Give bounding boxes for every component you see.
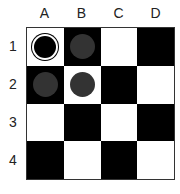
- cell-c1[interactable]: [101, 28, 138, 66]
- cell-b1[interactable]: [64, 28, 101, 66]
- cell-a1[interactable]: [27, 28, 64, 66]
- row-label-2: 2: [6, 76, 20, 92]
- cell-c3[interactable]: [101, 104, 138, 142]
- gray-piece-icon[interactable]: [33, 72, 58, 97]
- cell-a2[interactable]: [27, 66, 64, 104]
- cell-b4[interactable]: [64, 141, 101, 179]
- row-label-1: 1: [6, 38, 20, 54]
- row-label-4: 4: [6, 152, 20, 168]
- cell-c2[interactable]: [101, 66, 138, 104]
- black-piece-icon[interactable]: [34, 36, 56, 58]
- column-label-a: A: [26, 5, 63, 21]
- cell-c4[interactable]: [101, 141, 138, 179]
- cell-d3[interactable]: [137, 104, 174, 142]
- row-label-3: 3: [6, 114, 20, 130]
- cell-d1[interactable]: [137, 28, 174, 66]
- column-label-d: D: [137, 5, 174, 21]
- gray-piece-icon[interactable]: [70, 72, 95, 97]
- gray-piece-icon[interactable]: [70, 34, 95, 59]
- cell-a4[interactable]: [27, 141, 64, 179]
- board-grid: [26, 27, 175, 180]
- cell-a3[interactable]: [27, 104, 64, 142]
- cell-d4[interactable]: [137, 141, 174, 179]
- column-label-c: C: [100, 5, 137, 21]
- column-label-b: B: [63, 5, 100, 21]
- cell-b2[interactable]: [64, 66, 101, 104]
- cell-d2[interactable]: [137, 66, 174, 104]
- cell-b3[interactable]: [64, 104, 101, 142]
